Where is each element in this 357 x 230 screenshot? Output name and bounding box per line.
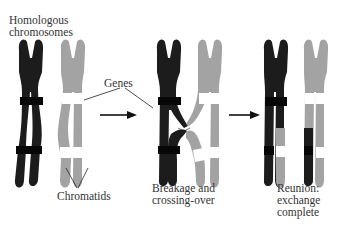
breakage-label-line1: Breakage and xyxy=(152,182,215,194)
gene-band xyxy=(316,147,325,158)
genes-pointer-lines xyxy=(84,88,153,108)
gene-band xyxy=(305,93,315,104)
genes-label: Genes xyxy=(104,77,133,89)
gene-band xyxy=(199,93,210,104)
dark-chromosome xyxy=(264,40,288,188)
chromatids-label: Chromatids xyxy=(57,190,111,202)
homologous-label-line1: Homologous xyxy=(9,14,68,26)
arrow-icon xyxy=(229,111,260,119)
reunion-label-line1: Reunion: xyxy=(277,182,319,194)
breakage-label-line2: crossing-over xyxy=(152,194,215,206)
stage-1-homologous-chromosomes xyxy=(15,40,85,188)
reunion-label-line2: exchange xyxy=(277,194,320,206)
gene-band xyxy=(276,146,285,157)
gene-band xyxy=(193,148,205,162)
gene-band xyxy=(60,147,72,158)
gene-band xyxy=(73,147,83,158)
homologous-label-line2: chromosomes xyxy=(9,26,73,38)
gene-band xyxy=(316,93,326,104)
dark-chromosome xyxy=(15,40,43,188)
crossing-over-diagram: Homologous chromosomes Genes Chromatids … xyxy=(0,0,357,230)
dark-chromosome xyxy=(157,40,188,186)
gene-band xyxy=(210,93,220,104)
stage-3-reunion-exchange-complete xyxy=(264,40,328,188)
gene-band xyxy=(73,93,84,104)
arrow-icon xyxy=(100,111,137,119)
reunion-label-line3: complete xyxy=(277,206,319,218)
gene-band xyxy=(210,147,220,158)
stage-2-breakage-crossing-over xyxy=(157,40,222,188)
light-chromosome xyxy=(304,40,328,188)
gene-band xyxy=(62,93,73,104)
light-chromosome xyxy=(186,40,222,188)
light-chromosome xyxy=(58,40,85,188)
